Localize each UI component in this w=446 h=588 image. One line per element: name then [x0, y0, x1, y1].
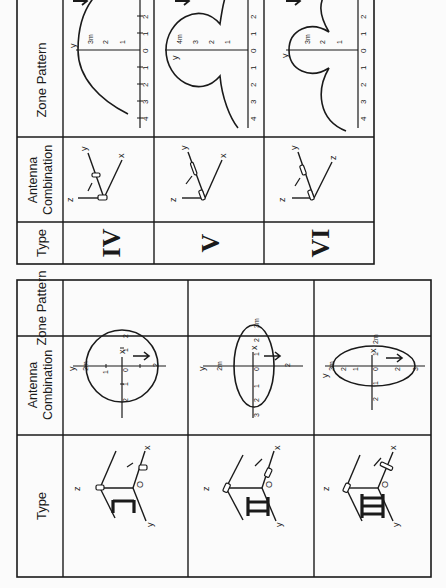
- axis-label-x: x: [117, 349, 127, 354]
- tick-label: 2: [372, 397, 379, 401]
- axis-label-x: x: [218, 153, 228, 158]
- direction-arrow: [175, 0, 189, 5]
- axis-label-z: z: [321, 486, 331, 491]
- antenna-element-y: [299, 165, 306, 176]
- axis-label-x: x: [142, 445, 152, 450]
- table-types-1-3: Type Antenna Combination Zone Pattern: [17, 270, 431, 577]
- axis-label-z: z: [72, 486, 82, 491]
- tick-label: 1: [102, 370, 109, 374]
- antenna-element-z: [96, 485, 104, 490]
- axis-label-z: z: [65, 197, 75, 202]
- axis-label-y: y: [179, 145, 189, 150]
- antenna-element-x: [264, 468, 272, 478]
- type-numeral-I: [113, 500, 134, 513]
- tick-label: 2: [141, 14, 150, 19]
- tick-label: 2: [152, 363, 159, 367]
- tick-label: 2m: [372, 334, 379, 344]
- antenna-diagram-IV: z y x: [65, 146, 126, 202]
- tick-label: 1: [336, 40, 343, 44]
- tick-label: 2: [359, 14, 368, 19]
- header-zone: Zone Pattern: [34, 42, 49, 117]
- zone-pattern-II: 2m 0 1 2 3m 1 2 3 2 y x: [197, 318, 303, 418]
- axis-label-y: y: [289, 145, 299, 150]
- antenna-diagram-VI: z y z: [277, 145, 338, 202]
- antenna-element-z: [342, 483, 350, 493]
- zone-pattern-VI: 4 3 2 1 0 1 2 3m 2 1 y: [280, 0, 368, 131]
- axis-label-y: y: [274, 522, 284, 527]
- zone-pattern-III: 3m 0 1 2m 1 2 2 1 2 3 y x: [320, 334, 425, 410]
- axis-label-y: y: [79, 146, 89, 151]
- type-numeral-VI: VI: [306, 229, 335, 258]
- zone-curve: [166, 0, 238, 128]
- axis-label-y: y: [170, 55, 180, 60]
- table-border: [17, 0, 374, 264]
- header-zone: Zone Pattern: [34, 270, 49, 345]
- antenna-element-y: [190, 162, 197, 175]
- tick-label: 3: [141, 99, 150, 104]
- tick-label: 2: [141, 82, 150, 87]
- tick-label: 4: [359, 116, 368, 121]
- direction-arrow: [286, 0, 300, 5]
- antenna-diagram-V: z y x: [168, 145, 228, 202]
- axis-label-y: y: [67, 366, 77, 371]
- tick-label: 1: [359, 65, 368, 70]
- axis-label-x: x: [116, 153, 126, 158]
- tick-label: 1: [141, 31, 150, 36]
- antenna-diagram-II: z O x y: [201, 445, 284, 527]
- tick-label: 1: [249, 65, 258, 70]
- type-numeral-III: [362, 494, 383, 518]
- antenna-zone-document: Type Antenna Combination Zone Pattern: [0, 0, 446, 588]
- axis-label-origin: O: [264, 481, 274, 488]
- tick-label: 2: [253, 338, 260, 342]
- axis-label-y: y: [197, 366, 207, 371]
- tick-label: 3m: [253, 318, 260, 328]
- tick-label: 3m: [328, 361, 335, 371]
- tick-label: 4: [141, 116, 150, 121]
- antenna-element-x: [139, 465, 147, 470]
- tick-label: 2: [253, 398, 260, 402]
- tick-label: 0: [253, 367, 260, 371]
- tick-label: 2m: [216, 361, 223, 371]
- zone-curve: [78, 0, 128, 114]
- zone-pattern-IV: 4 3 2 1 0 1 2 3m 2 1 y: [68, 0, 150, 128]
- type-numeral-II: [248, 497, 268, 516]
- header-antenna-line1: Antenna: [26, 157, 40, 204]
- tick-label: 2: [359, 82, 368, 87]
- antenna-element-z: [198, 190, 205, 201]
- axis-label-y: y: [280, 53, 290, 58]
- tick-label: 2m: [82, 361, 89, 371]
- tick-label: 1: [253, 384, 260, 388]
- tick-label: 1: [122, 382, 129, 386]
- tick-label: 1: [224, 40, 231, 44]
- tick-label: 2: [249, 14, 258, 19]
- axis-label-x: x: [368, 348, 378, 353]
- antenna-element-y: [92, 173, 100, 177]
- axis-label-y: y: [145, 522, 155, 527]
- tick-label: 0: [141, 48, 150, 53]
- type-numeral-IV: IV: [97, 228, 126, 257]
- antenna-element-z: [307, 190, 314, 201]
- axis-label-z: z: [201, 486, 211, 491]
- header-antenna-line2: Combination: [41, 145, 55, 215]
- direction-arrow: [133, 352, 149, 360]
- axis-label-origin: O: [135, 481, 145, 488]
- header-antenna-line2: Combination: [41, 350, 55, 420]
- header-type: Type: [34, 229, 49, 257]
- direction-arrow: [386, 354, 402, 362]
- tick-label: 3: [412, 367, 419, 371]
- axis-label-y: y: [320, 373, 330, 378]
- tick-label: 1: [372, 381, 379, 385]
- zone-pattern-V: 4 3 2 1 0 1 2 4m 3 2 1 y: [165, 0, 258, 128]
- zone-pattern-I: 2m 1 0 1 2 1 2 2 y x: [67, 330, 166, 418]
- tick-label: 3: [192, 40, 199, 44]
- table-types-4-6: Type Antenna Combination Zone Pattern IV…: [17, 0, 374, 264]
- tick-label: 1: [359, 31, 368, 36]
- antenna-diagram-I: z O x y: [72, 445, 155, 527]
- tick-label: 3: [253, 413, 260, 417]
- header-type: Type: [34, 492, 49, 520]
- tick-label: 1: [249, 31, 258, 36]
- tick-label: 1: [119, 40, 126, 44]
- axis-label-z: z: [168, 197, 178, 202]
- tick-label: 2: [102, 40, 109, 44]
- type-numeral-V: V: [196, 233, 225, 252]
